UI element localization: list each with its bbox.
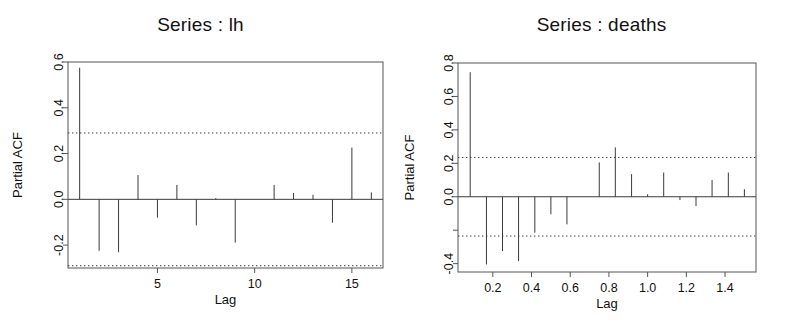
- y-axis-tick-label: 0.2: [442, 155, 456, 172]
- y-axis-tick-label: 0.4: [52, 99, 66, 116]
- panel-lh: Series : lh -0.20.00.20.40.651015LagPart…: [0, 0, 401, 326]
- x-axis-tick-label: 1.0: [639, 281, 656, 295]
- plot-area-deaths: -0.40.00.20.40.60.80.20.40.60.81.01.21.4…: [401, 0, 802, 326]
- plot-frame: [68, 62, 383, 268]
- y-axis-tick-label: 0.0: [442, 188, 456, 205]
- y-axis-tick-label: 0.4: [442, 121, 456, 138]
- x-axis-tick-label: 0.6: [562, 281, 579, 295]
- x-axis-tick-label: 1.2: [678, 281, 695, 295]
- x-axis-tick-label: 0.2: [484, 281, 501, 295]
- y-axis-label: Partial ACF: [402, 135, 417, 201]
- plot-area-lh: -0.20.00.20.40.651015LagPartial ACF: [0, 0, 401, 326]
- y-axis-tick-label: 0.0: [52, 191, 66, 208]
- x-axis-tick-label: 5: [154, 277, 161, 291]
- y-axis-tick-label: 0.2: [52, 145, 66, 162]
- y-axis-tick-label: 0.6: [442, 88, 456, 105]
- pacf-figure: Series : lh -0.20.00.20.40.651015LagPart…: [0, 0, 802, 326]
- y-axis-tick-label: 0.8: [442, 54, 456, 71]
- x-axis-label: Lag: [215, 292, 237, 307]
- spike-series: [80, 68, 372, 252]
- y-axis-tick-label: -0.4: [442, 253, 456, 275]
- panel-deaths: Series : deaths -0.40.00.20.40.60.80.20.…: [401, 0, 802, 326]
- x-axis-tick-label: 15: [345, 277, 359, 291]
- x-axis-label: Lag: [596, 296, 618, 311]
- x-axis-tick-label: 0.8: [600, 281, 617, 295]
- y-axis-label: Partial ACF: [10, 132, 25, 198]
- x-axis-tick-label: 1.4: [716, 281, 733, 295]
- x-axis-tick-label: 0.4: [523, 281, 540, 295]
- y-axis-tick-label: -0.2: [52, 234, 66, 256]
- y-axis-tick-label: 0.6: [52, 53, 66, 70]
- x-axis-tick-label: 10: [248, 277, 262, 291]
